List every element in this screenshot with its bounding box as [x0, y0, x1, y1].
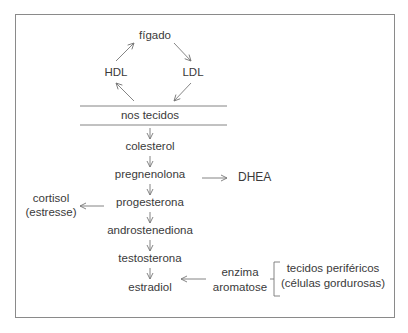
label-aromatose: aromatose — [213, 281, 267, 294]
label-ldl: LDL — [182, 66, 203, 79]
label-nos-tecidos: nos tecidos — [121, 109, 179, 122]
label-tecidos-perifericos: tecidos periféricos — [287, 262, 380, 275]
label-progesterona: progesterona — [116, 196, 184, 209]
label-figado: fígado — [139, 29, 171, 42]
label-colesterol: colesterol — [125, 140, 174, 153]
label-hdl: HDL — [104, 66, 127, 79]
bracket — [270, 262, 280, 296]
label-cortisol: cortisol — [33, 192, 69, 205]
label-dhea: DHEA — [238, 171, 271, 184]
label-androstenediona: androstenediona — [107, 224, 193, 237]
label-celulas-gordurosas: (células gordurosas) — [281, 277, 385, 290]
arrow-ldl-to-tissues — [174, 83, 191, 101]
label-estradiol: estradiol — [128, 281, 171, 294]
arrow-tissues-to-hdl — [116, 83, 134, 101]
label-pregnenolona: pregnenolona — [115, 168, 185, 181]
arrow-hdl-to-figado — [116, 43, 134, 61]
arrow-figado-to-ldl — [174, 43, 191, 61]
label-enzima: enzima — [221, 266, 258, 279]
label-testosterona: testosterona — [118, 252, 181, 265]
label-estresse: (estresse) — [25, 206, 76, 219]
